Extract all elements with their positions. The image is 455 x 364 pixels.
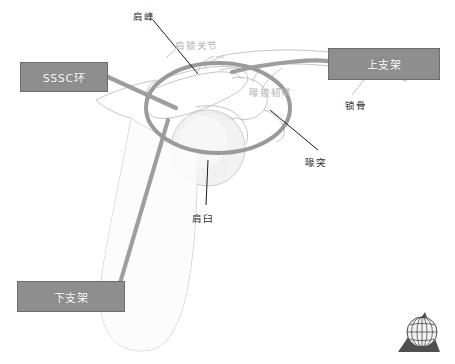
acromion-plate — [146, 66, 248, 118]
callout-upper-strut[interactable]: 上支架 — [328, 48, 440, 80]
annotation-clavicle: 锁骨 — [345, 98, 367, 112]
strut-sssc-leader — [108, 77, 176, 108]
callout-sssc-ring[interactable]: SSSC环 — [20, 62, 108, 92]
annotation-acromion: 肩峰 — [133, 9, 155, 23]
leader-clavicle — [352, 80, 364, 95]
annotation-coracoclavicular-ligament: 喙锁韧带 — [249, 85, 292, 99]
figure-canvas: SSSC环 上支架 下支架 肩峰 肩锁关节 喙锁韧带 锁骨 喙突 肩臼 — [0, 0, 455, 364]
callout-lower-strut[interactable]: 下支架 — [17, 281, 125, 312]
annotation-acromioclavicular-joint: 肩锁关节 — [175, 38, 218, 52]
leader-coracoid — [270, 110, 318, 150]
scapula-notch — [96, 100, 131, 118]
annotation-coracoid-process: 喙突 — [305, 155, 327, 169]
callout-upper-strut-label: 上支架 — [367, 56, 402, 72]
callout-lower-strut-label: 下支架 — [54, 289, 89, 305]
annotation-glenoid: 肩臼 — [192, 211, 214, 225]
globe-logo-group — [398, 312, 440, 352]
callout-sssc-ring-label: SSSC环 — [43, 69, 86, 85]
scapula-body-fill — [101, 118, 197, 351]
